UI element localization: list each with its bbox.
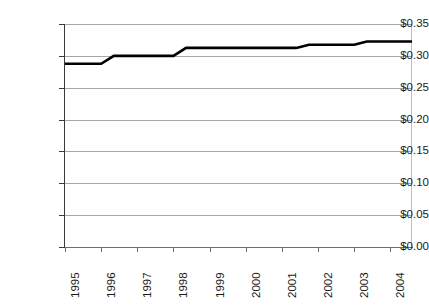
x-axis-tick bbox=[354, 247, 355, 252]
y-axis-tick bbox=[59, 24, 65, 25]
gridline bbox=[65, 24, 412, 25]
y-axis-tick bbox=[59, 183, 65, 184]
x-axis-tick bbox=[246, 247, 247, 252]
x-axis-tick bbox=[390, 247, 391, 252]
y-axis-tick bbox=[59, 215, 65, 216]
x-axis-label: 2004 bbox=[395, 272, 407, 298]
x-axis-spine bbox=[64, 247, 413, 248]
y-axis-label: $0.35 bbox=[373, 18, 429, 30]
y-axis-tick bbox=[59, 56, 65, 57]
x-axis-tick bbox=[210, 247, 211, 252]
gridline bbox=[65, 56, 412, 57]
gridline bbox=[65, 88, 412, 89]
y-axis-label: $0.20 bbox=[373, 114, 429, 126]
x-axis-tick bbox=[173, 247, 174, 252]
x-axis-label: 1995 bbox=[70, 272, 82, 298]
x-axis-tick bbox=[101, 247, 102, 252]
gridline bbox=[65, 120, 412, 121]
y-axis-label: $0.00 bbox=[373, 241, 429, 253]
x-axis-label: 2003 bbox=[359, 272, 371, 298]
y-axis-tick bbox=[59, 120, 65, 121]
x-axis-tick bbox=[65, 247, 66, 252]
x-axis-label: 2001 bbox=[287, 272, 299, 298]
gridline bbox=[65, 215, 412, 216]
y-axis-label: $0.30 bbox=[373, 50, 429, 62]
y-axis-label: $0.10 bbox=[373, 177, 429, 189]
line-chart: $0.00$0.05$0.10$0.15$0.20$0.25$0.30$0.35… bbox=[0, 0, 429, 306]
gridline bbox=[65, 151, 412, 152]
plot-area bbox=[65, 24, 412, 247]
x-axis-label: 1999 bbox=[215, 272, 227, 298]
x-axis-tick bbox=[137, 247, 138, 252]
y-axis-label: $0.25 bbox=[373, 82, 429, 94]
y-axis-label: $0.15 bbox=[373, 145, 429, 157]
gridline bbox=[65, 183, 412, 184]
x-axis-label: 1997 bbox=[142, 272, 154, 298]
x-axis-label: 1998 bbox=[178, 272, 190, 298]
y-axis-label: $0.05 bbox=[373, 209, 429, 221]
x-axis-tick bbox=[318, 247, 319, 252]
x-axis-label: 2002 bbox=[323, 272, 335, 298]
x-axis-tick bbox=[282, 247, 283, 252]
y-axis-tick bbox=[59, 88, 65, 89]
x-axis-label: 2000 bbox=[251, 272, 263, 298]
x-axis-label: 1996 bbox=[106, 272, 118, 298]
y-axis-tick bbox=[59, 151, 65, 152]
